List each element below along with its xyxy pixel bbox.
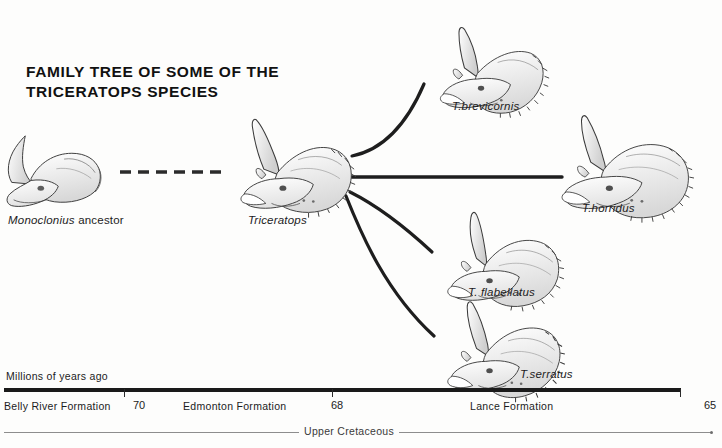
- label-t-serratus: T.serratus: [520, 368, 573, 380]
- era-label-upper-cretaceous: Upper Cretaceous: [299, 425, 399, 437]
- axis-units-caption: Millions of years ago: [6, 370, 108, 382]
- label-triceratops: Triceratops: [248, 214, 307, 226]
- label-t-flabellatus: T. flabellatus: [468, 286, 535, 298]
- family-tree-figure: FAMILY TREE OF SOME OF THE TRICERATOPS S…: [0, 0, 722, 448]
- formation-edmonton: Edmonton Formation: [183, 400, 286, 412]
- timeline-tick-70: [124, 389, 125, 397]
- timeline-bar: [4, 388, 681, 392]
- era-rule-end-dot: [710, 431, 713, 434]
- label-monoclonius-ancestor: Monoclonius ancestor: [8, 214, 124, 226]
- formation-belly-river: Belly River Formation: [4, 400, 111, 412]
- label-t-horridus: T.horridus: [582, 202, 635, 214]
- formation-lance: Lance Formation: [470, 400, 553, 412]
- label-monoclonius-suffix: ancestor: [75, 214, 124, 226]
- tick-label-68: 68: [331, 399, 343, 411]
- label-monoclonius-genus: Monoclonius: [8, 214, 75, 226]
- skull-monoclonius-ancestor: [7, 136, 101, 207]
- timeline-tick-68: [332, 389, 333, 397]
- tick-label-65: 65: [704, 399, 716, 411]
- timeline-tick-65: [680, 389, 681, 397]
- tick-label-70: 70: [133, 399, 145, 411]
- edge-triceratops-to-flabellatus: [350, 192, 432, 252]
- page-title: FAMILY TREE OF SOME OF THE TRICERATOPS S…: [26, 62, 356, 102]
- label-t-brevicornis: T.brevicornis: [452, 100, 519, 112]
- skull-triceratops: [241, 119, 356, 217]
- edge-triceratops-to-brevicornis: [352, 84, 424, 156]
